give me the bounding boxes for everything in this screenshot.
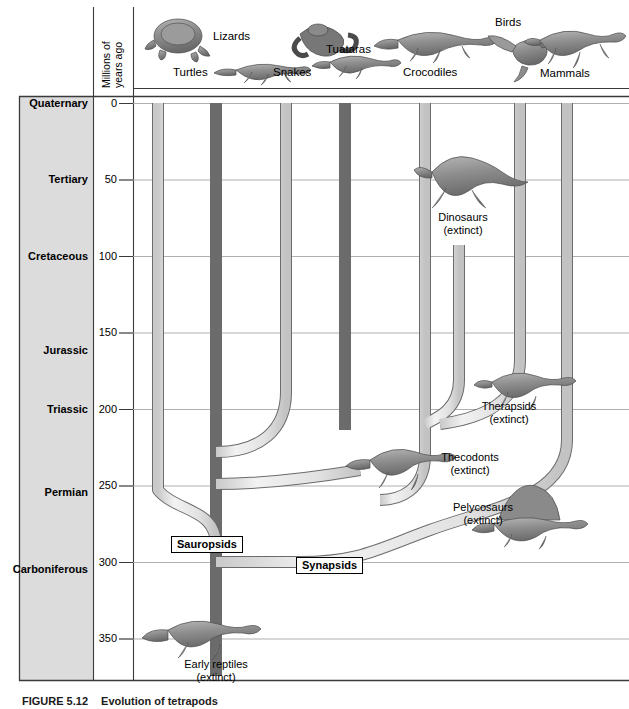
axis-ticks: [119, 104, 133, 640]
figure-evolution-of-tetrapods: Millions of years ago Quaternary Tertiar…: [0, 0, 629, 709]
figure-caption-number: FIGURE 5.12: [22, 695, 88, 707]
period-label-triassic: Triassic: [0, 403, 88, 415]
extinct-label-therapsids: Therapsids (extinct): [470, 400, 548, 426]
axis-tick-100: 100: [93, 250, 117, 262]
crocodile-icon: [374, 32, 498, 63]
axis-tick-350: 350: [93, 632, 117, 644]
taxon-label-crocodiles: Crocodiles: [403, 66, 457, 79]
taxon-label-snakes: Snakes: [273, 66, 311, 79]
taxon-label-turtles: Turtles: [173, 66, 208, 79]
taxon-label-lizards: Lizards: [213, 30, 250, 43]
extinct-label-early-reptiles: Early reptiles (extinct): [168, 658, 264, 684]
period-label-tertiary: Tertiary: [0, 173, 88, 185]
extinct-name-therapsids: Therapsids: [470, 400, 548, 413]
turtle-icon: [145, 19, 210, 62]
axis-tick-250: 250: [93, 479, 117, 491]
taxon-label-tuataras: Tuataras: [326, 43, 371, 56]
branch-turtles: [158, 103, 216, 545]
gridlines: [119, 104, 629, 640]
axis-tick-0: 0: [93, 97, 117, 109]
axis-tick-150: 150: [93, 326, 117, 338]
axis-title-line2: years ago: [113, 41, 125, 88]
period-label-quaternary: Quaternary: [0, 97, 88, 109]
tuatara-icon: [312, 56, 401, 79]
extinct-status-pelycosaurs: (extinct): [440, 514, 526, 527]
extinct-label-pelycosaurs: Pelycosaurs (extinct): [440, 501, 526, 527]
period-label-cretaceous: Cretaceous: [0, 250, 88, 262]
branch-crocodiles: [380, 103, 425, 500]
period-label-permian: Permian: [0, 486, 88, 498]
taxon-label-birds: Birds: [495, 16, 521, 29]
extinct-name-dinosaurs: Dinosaurs: [428, 211, 498, 224]
axis-title: Millions of years ago: [101, 41, 124, 88]
figure-caption: FIGURE 5.12 Evolution of tetrapods: [22, 695, 218, 707]
axis-title-line1: Millions of: [101, 41, 113, 88]
period-label-jurassic: Jurassic: [0, 344, 88, 356]
extinct-status-early-reptiles: (extinct): [168, 671, 264, 684]
axis-tick-50: 50: [93, 173, 117, 185]
extinct-name-pelycosaurs: Pelycosaurs: [440, 501, 526, 514]
extinct-name-early-reptiles: Early reptiles: [168, 658, 264, 671]
period-label-carboniferous: Carboniferous: [0, 563, 88, 575]
clade-box-sauropsids[interactable]: Sauropsids: [171, 536, 243, 553]
branch-squamates: [216, 103, 286, 452]
taxon-label-mammals: Mammals: [540, 67, 590, 80]
dinosaur-icon: [414, 157, 528, 208]
axis-tick-200: 200: [93, 403, 117, 415]
branch-tuataras: [216, 470, 360, 484]
extinct-status-dinosaurs: (extinct): [428, 224, 498, 237]
extinct-label-dinosaurs: Dinosaurs (extinct): [428, 211, 498, 237]
extinct-status-thecodonts: (extinct): [430, 464, 510, 477]
extinct-name-thecodonts: Thecodonts: [430, 451, 510, 464]
early-reptile-icon: [142, 621, 261, 660]
clade-box-synapsids[interactable]: Synapsids: [296, 557, 363, 574]
figure-caption-text: Evolution of tetrapods: [101, 695, 218, 707]
axis-tick-300: 300: [93, 556, 117, 568]
extinct-label-thecodonts: Thecodonts (extinct): [430, 451, 510, 477]
extinct-status-therapsids: (extinct): [470, 413, 548, 426]
